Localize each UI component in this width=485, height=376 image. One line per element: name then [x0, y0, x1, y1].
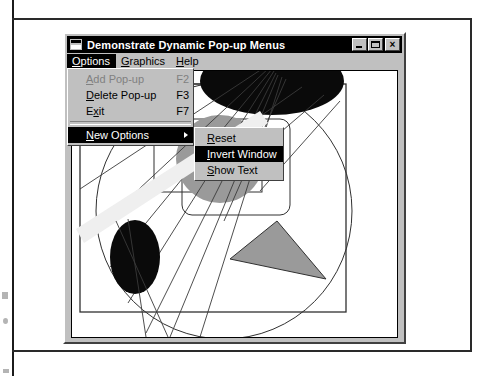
application-window[interactable]: Demonstrate Dynamic Pop-up Menus × OOpti…	[63, 32, 406, 344]
submenu-item-show-text-label: Show Text	[207, 164, 279, 176]
menu-bar-item-graphics[interactable]: GGraphicsraphics	[116, 54, 171, 68]
gray-triangle	[230, 221, 326, 279]
submenu-item-reset-label: Reset	[207, 132, 279, 144]
submenu-item-reset[interactable]: Reset	[195, 130, 283, 146]
page-border-right	[470, 18, 472, 352]
options-dropdown-menu[interactable]: Add Pop-up F2 Delete Pop-up F3 Exit F7 N…	[67, 68, 194, 146]
page-border-left	[12, 0, 14, 376]
submenu-arrow-icon	[184, 132, 188, 138]
new-options-submenu[interactable]: Reset Invert Window Show Text	[194, 127, 284, 181]
submenu-item-invert-window[interactable]: Invert Window	[195, 146, 283, 162]
close-button[interactable]: ×	[385, 38, 400, 51]
window-title: Demonstrate Dynamic Pop-up Menus	[87, 39, 351, 51]
menu-item-exit-accel: F7	[173, 105, 189, 117]
menu-item-exit[interactable]: Exit F7	[68, 103, 193, 119]
menu-item-add-popup[interactable]: Add Pop-up F2	[68, 71, 193, 87]
menu-item-add-popup-accel: F2	[173, 73, 189, 85]
scanned-page: Demonstrate Dynamic Pop-up Menus × OOpti…	[0, 0, 485, 376]
menu-bar[interactable]: OOptionsptions GGraphicsraphics HHelpelp	[67, 53, 402, 68]
menu-separator	[70, 121, 191, 125]
close-icon: ×	[386, 38, 399, 51]
menu-item-delete-popup-label: Delete Pop-up	[86, 89, 163, 101]
submenu-item-show-text[interactable]: Show Text	[195, 162, 283, 178]
menu-item-delete-popup-accel: F3	[173, 89, 189, 101]
scan-speckle	[3, 369, 9, 373]
menu-item-delete-popup[interactable]: Delete Pop-up F3	[68, 87, 193, 103]
maximize-button[interactable]	[368, 38, 383, 51]
minimize-button[interactable]	[352, 38, 367, 51]
menu-item-add-popup-label: Add Pop-up	[86, 73, 163, 85]
scan-speckle	[2, 292, 8, 299]
black-ellipse-left	[110, 220, 160, 294]
window-document-icon[interactable]	[69, 38, 83, 51]
page-border-bottom	[12, 350, 472, 352]
title-bar[interactable]: Demonstrate Dynamic Pop-up Menus ×	[67, 36, 402, 53]
menu-bar-item-options[interactable]: OOptionsptions	[67, 54, 116, 68]
scan-speckle	[3, 318, 8, 324]
menu-item-exit-label: Exit	[86, 105, 163, 117]
menu-bar-item-help[interactable]: HHelpelp	[171, 54, 205, 68]
submenu-item-invert-window-label: Invert Window	[207, 148, 279, 160]
menu-item-new-options-label: New Options	[86, 129, 189, 141]
menu-item-new-options[interactable]: New Options	[68, 127, 193, 143]
page-border-top	[12, 18, 472, 20]
